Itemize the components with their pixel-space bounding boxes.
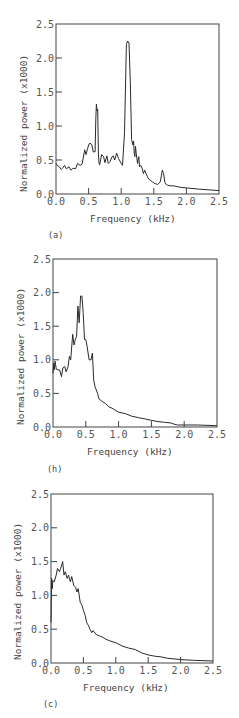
spectra-figure: 0.00.51.01.52.02.50.00.51.01.52.02.5 Fre… xyxy=(0,0,239,718)
x-tick-label: 1.5 xyxy=(139,665,157,676)
panel-a-axes-frame xyxy=(56,24,219,194)
y-tick-label: 1.5 xyxy=(36,87,54,98)
panel-b-label: (h) xyxy=(47,464,62,474)
y-tick-label: 2.0 xyxy=(31,522,49,533)
x-tick-label: 2.0 xyxy=(172,665,190,676)
x-tick-label: 1.5 xyxy=(142,429,160,440)
x-tick-label: 2.5 xyxy=(208,429,226,440)
panel-a-curve xyxy=(56,41,219,191)
y-tick-label: 0.0 xyxy=(33,422,51,433)
x-tick-label: 2.5 xyxy=(210,196,228,207)
panel-a: 0.00.51.01.52.02.50.00.51.01.52.02.5 Fre… xyxy=(18,19,228,241)
panel-c-curve xyxy=(51,562,213,661)
y-tick-label: 0.5 xyxy=(31,624,49,635)
y-tick-label: 2.5 xyxy=(31,489,49,500)
panel-c-xlabel: Frequency (kHz) xyxy=(83,682,169,693)
x-tick-label: 1.5 xyxy=(145,196,163,207)
panel-b: 0.00.51.01.52.02.50.00.51.01.52.02.5 Fre… xyxy=(15,254,226,475)
x-tick-label: 1.0 xyxy=(107,665,125,676)
x-tick-label: 2.0 xyxy=(177,196,195,207)
y-tick-label: 1.5 xyxy=(31,556,49,567)
y-tick-label: 2.5 xyxy=(33,254,51,265)
x-tick-label: 0.5 xyxy=(74,665,92,676)
y-tick-label: 2.0 xyxy=(33,287,51,298)
panel-c-label: (c) xyxy=(43,699,58,709)
x-tick-label: 2.0 xyxy=(175,429,193,440)
y-tick-label: 1.0 xyxy=(31,590,49,601)
y-tick-label: 0.5 xyxy=(36,155,54,166)
panel-c: 0.00.51.01.52.02.50.00.51.01.52.02.5 Fre… xyxy=(12,489,222,710)
y-tick-label: 1.0 xyxy=(36,121,54,132)
y-tick-label: 0.0 xyxy=(31,658,49,669)
panel-c-ylabel: Normalized power (x1000) xyxy=(12,523,23,660)
x-tick-label: 1.0 xyxy=(110,429,128,440)
y-tick-label: 1.5 xyxy=(33,321,51,332)
panel-a-xlabel: Frequency (kHz) xyxy=(90,213,176,224)
y-tick-label: 2.0 xyxy=(36,53,54,64)
x-tick-label: 0.5 xyxy=(80,196,98,207)
panel-b-xlabel: Frequency (kHz) xyxy=(87,446,173,457)
panel-a-ylabel: Normalized power (x1000) xyxy=(18,55,29,192)
y-tick-label: 2.5 xyxy=(36,19,54,30)
y-tick-label: 0.5 xyxy=(33,388,51,399)
panel-a-ticks: 0.00.51.01.52.02.50.00.51.01.52.02.5 xyxy=(36,19,228,208)
y-tick-label: 1.0 xyxy=(33,354,51,365)
panel-c-axes-frame xyxy=(51,494,213,663)
x-tick-label: 1.0 xyxy=(112,196,130,207)
panel-b-axes-frame xyxy=(53,259,217,427)
panel-a-label: (a) xyxy=(48,230,63,240)
panel-b-ylabel: Normalized power (x1000) xyxy=(15,288,26,425)
panel-b-ticks: 0.00.51.01.52.02.50.00.51.01.52.02.5 xyxy=(33,254,226,441)
panel-b-curve xyxy=(53,296,217,426)
x-tick-label: 2.5 xyxy=(204,665,222,676)
x-tick-label: 0.5 xyxy=(77,429,95,440)
y-tick-label: 0.0 xyxy=(36,189,54,200)
